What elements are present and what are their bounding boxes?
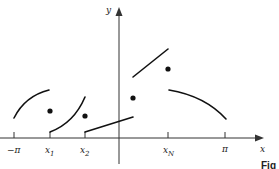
jump-dot-mid: [130, 95, 135, 100]
tick-label-x2: x2: [80, 145, 90, 158]
jump-dot-x1: [47, 108, 52, 113]
segment-4: [133, 49, 168, 77]
tick-label-neg-pi: −π: [7, 145, 22, 155]
y-axis-label: y: [105, 5, 112, 15]
segment-2: [50, 97, 85, 132]
jump-dot-x2: [82, 113, 87, 118]
piecewise-function-diagram: y x −π x1 x2 xN π Fig: [0, 0, 279, 169]
segment-1: [14, 90, 49, 118]
x-axis-label: x: [260, 144, 265, 154]
y-axis-arrow-icon: [116, 7, 123, 16]
segment-5: [169, 90, 226, 119]
segment-3: [85, 117, 133, 132]
jump-dot-xN: [165, 66, 170, 71]
tick-label-xN: xN: [163, 145, 175, 158]
figure-caption: Fig: [261, 160, 276, 169]
tick-label-pi: π: [221, 144, 229, 154]
tick-label-x1: x1: [45, 145, 55, 158]
x-axis-arrow-icon: [255, 135, 264, 142]
